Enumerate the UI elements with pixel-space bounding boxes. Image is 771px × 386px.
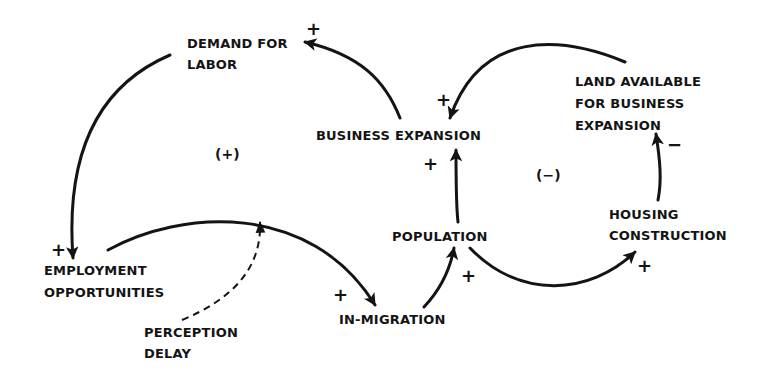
node-label-line: CONSTRUCTION — [609, 228, 727, 243]
node-label-line: EMPLOYMENT — [44, 263, 147, 278]
causal-loop-diagram: DEMAND FOR LABOR EMPLOYMENT OPPORTUNITIE… — [0, 0, 771, 386]
node-employment-opportunities: EMPLOYMENT OPPORTUNITIES — [44, 263, 164, 300]
node-label-line: HOUSING — [609, 207, 679, 222]
edge-perception-delay — [182, 222, 260, 320]
node-label-line: POPULATION — [392, 229, 488, 244]
node-label-line: LABOR — [187, 57, 237, 72]
node-label-line: FOR BUSINESS — [575, 96, 684, 111]
node-label-line: BUSINESS EXPANSION — [316, 128, 481, 143]
node-land-available: LAND AVAILABLE FOR BUSINESS EXPANSION — [575, 74, 701, 133]
node-in-migration: IN-MIGRATION — [339, 312, 446, 327]
node-label-line: DEMAND FOR — [187, 36, 288, 51]
node-demand-for-labor: DEMAND FOR LABOR — [187, 36, 288, 72]
node-business-expansion: BUSINESS EXPANSION — [316, 128, 481, 143]
node-label-line: PERCEPTION — [144, 325, 238, 340]
edge-housing-to-land-available — [656, 134, 660, 200]
edge-population-to-business-expansion — [456, 150, 458, 222]
node-label-line: OPPORTUNITIES — [44, 285, 164, 300]
node-label-line: LAND AVAILABLE — [575, 74, 701, 89]
polarity-sign: + — [423, 153, 438, 174]
edge-in-migration-to-population — [424, 248, 454, 307]
edge-population-to-housing-construction — [470, 248, 635, 286]
loop-marker-balancing: (−) — [536, 167, 561, 183]
node-population: POPULATION — [392, 229, 488, 244]
polarity-sign: + — [306, 18, 321, 39]
node-label-line: DELAY — [144, 346, 192, 361]
polarity-sign: + — [461, 265, 476, 286]
loop-marker-reinforcing: (+) — [215, 146, 240, 162]
polarity-sign: − — [667, 134, 682, 155]
polarity-sign: + — [637, 255, 652, 276]
polarity-sign: + — [436, 89, 451, 110]
edge-demand-for-labor-to-employment — [72, 55, 170, 258]
node-label-line: EXPANSION — [575, 118, 661, 133]
node-housing-construction: HOUSING CONSTRUCTION — [609, 207, 727, 243]
edge-business-expansion-to-demand-for-labor — [305, 42, 400, 118]
node-label-line: IN-MIGRATION — [339, 312, 446, 327]
node-perception-delay: PERCEPTION DELAY — [144, 325, 238, 361]
polarity-sign: + — [51, 239, 66, 260]
polarity-sign: + — [333, 284, 348, 305]
